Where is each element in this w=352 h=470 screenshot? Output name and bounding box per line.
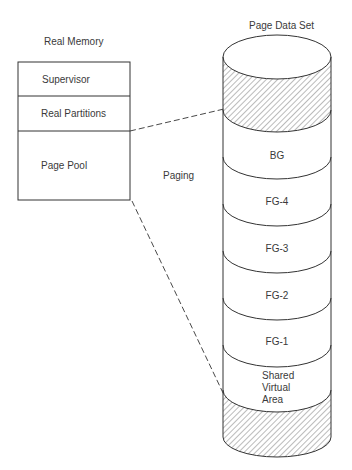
paging-label: Paging <box>163 170 194 181</box>
page-data-set-title: Page Data Set <box>249 20 314 31</box>
segment-bg: BG <box>223 150 331 161</box>
dashed-connector-top <box>130 109 224 131</box>
segment-real-partitions: Real Partitions <box>41 108 106 119</box>
segment-page-pool: Page Pool <box>41 160 87 171</box>
shared-line-3: Area <box>262 394 294 406</box>
cylinder-top-ellipse <box>223 35 331 79</box>
segment-fg-1: FG-1 <box>223 336 331 347</box>
segment-fg-2: FG-2 <box>223 290 331 301</box>
real-memory-title: Real Memory <box>44 36 103 47</box>
segment-fg-3: FG-3 <box>223 243 331 254</box>
dashed-connector-bottom <box>132 201 224 395</box>
diagram-canvas <box>0 0 352 470</box>
segment-supervisor: Supervisor <box>42 74 90 85</box>
shared-line-1: Shared <box>262 370 294 382</box>
shared-line-2: Virtual <box>262 382 294 394</box>
segment-fg-4: FG-4 <box>223 196 331 207</box>
segment-shared-virtual-area: Shared Virtual Area <box>262 370 294 406</box>
